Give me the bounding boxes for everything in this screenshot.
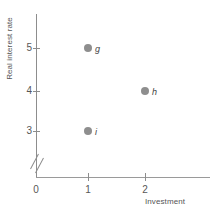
x-tick-mark-2 bbox=[145, 173, 146, 181]
origin-label: 0 bbox=[26, 185, 46, 195]
x-axis-line bbox=[36, 177, 210, 178]
y-tick-mark-3 bbox=[33, 131, 40, 132]
y-tick-label-5: 5 bbox=[12, 43, 32, 53]
caption-sliver bbox=[4, 213, 114, 219]
scatter-chart: 5 4 3 1 2 0 Real interest rate Investmen… bbox=[0, 0, 211, 219]
data-point-h bbox=[141, 87, 149, 95]
y-axis-title: Real interest rate bbox=[5, 9, 14, 89]
y-tick-label-4: 4 bbox=[12, 86, 32, 96]
x-tick-mark-1 bbox=[88, 173, 89, 181]
y-tick-mark-5 bbox=[33, 48, 40, 49]
y-tick-label-3: 3 bbox=[12, 126, 32, 136]
data-point-label-i: i bbox=[95, 128, 97, 137]
data-point-g bbox=[84, 44, 92, 52]
y-axis-break-icon bbox=[28, 152, 46, 178]
x-tick-label-1: 1 bbox=[78, 185, 98, 195]
data-point-label-h: h bbox=[152, 88, 157, 97]
data-point-label-g: g bbox=[95, 45, 100, 54]
data-point-i bbox=[84, 127, 92, 135]
x-tick-label-2: 2 bbox=[135, 185, 155, 195]
y-tick-mark-4 bbox=[33, 91, 40, 92]
x-axis-title: Investment bbox=[145, 197, 185, 206]
